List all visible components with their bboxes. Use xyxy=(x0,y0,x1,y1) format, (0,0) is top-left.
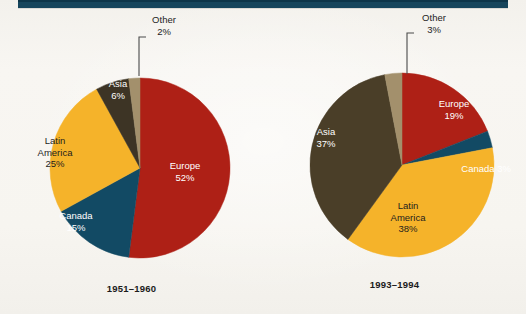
pie-slices-right xyxy=(310,73,494,257)
pie-svg-left xyxy=(0,0,263,314)
other-leader-line-left xyxy=(139,37,146,76)
pie-slice-europe xyxy=(129,78,230,258)
pie-chart-1951-1960: Europe 52% Canada 15% Latin America 25% … xyxy=(0,0,263,314)
other-leader-line-right xyxy=(407,33,414,74)
chart-caption-right: 1993–1994 xyxy=(263,279,526,290)
pie-slices-left xyxy=(50,78,230,258)
pie-svg-right xyxy=(263,0,526,314)
figure-page: Europe 52% Canada 15% Latin America 25% … xyxy=(0,0,526,314)
pie-chart-1993-1994: Europe 19% Canada 3% Latin America 38% A… xyxy=(263,0,526,314)
slice-label-other-left: Other 2% xyxy=(132,14,196,38)
chart-caption-left: 1951–1960 xyxy=(0,283,263,294)
slice-label-other-right: Other 3% xyxy=(403,12,465,36)
